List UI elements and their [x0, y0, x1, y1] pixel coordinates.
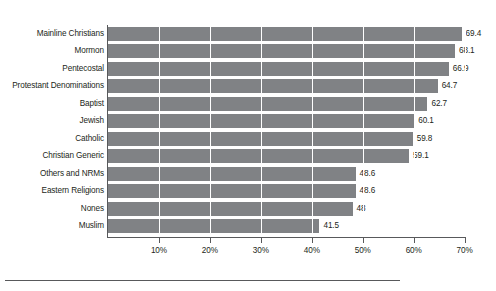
x-axis-tick — [363, 238, 364, 243]
bar-row: 41.5 — [108, 219, 496, 233]
bar-value-label: 48.6 — [356, 184, 376, 198]
gridline — [261, 27, 262, 236]
category-label: Jewish — [0, 114, 104, 128]
gridline — [414, 27, 415, 236]
bar — [108, 27, 462, 41]
bar-value-label: 59.8 — [413, 132, 433, 146]
bar — [108, 202, 353, 216]
bar-chart-figure: 69.468.166.964.762.760.159.859.148.648.6… — [0, 0, 496, 291]
x-axis-tick-label: 40% — [292, 246, 332, 255]
category-label: Pentecostal — [0, 62, 104, 76]
bar-row: 48.6 — [108, 184, 496, 198]
bar-row: 60.1 — [108, 114, 496, 128]
x-axis-tick-label: 30% — [241, 246, 281, 255]
bar-value-label: 60.1 — [414, 114, 434, 128]
bar-row: 66.9 — [108, 62, 496, 76]
gridline — [465, 27, 466, 236]
gridline — [210, 27, 211, 236]
x-axis-tick — [312, 238, 313, 243]
x-axis-tick — [210, 238, 211, 243]
category-label: Others and NRMs — [0, 167, 104, 181]
gridline — [312, 27, 313, 236]
x-axis-tick — [414, 238, 415, 243]
x-axis-tick-label: 10% — [139, 246, 179, 255]
category-label: Catholic — [0, 132, 104, 146]
category-label: Muslim — [0, 219, 104, 233]
footer-rule — [5, 280, 400, 281]
bar — [108, 79, 438, 93]
x-axis-tick-label: 60% — [394, 246, 434, 255]
bar-value-label: 41.5 — [319, 219, 339, 233]
bar-row: 68.1 — [108, 44, 496, 58]
bar — [108, 167, 356, 181]
bar-row: 48.6 — [108, 167, 496, 181]
bar-row: 64.7 — [108, 79, 496, 93]
bar — [108, 219, 319, 233]
category-label: Christian Generic — [0, 149, 104, 163]
x-axis-tick — [159, 238, 160, 243]
category-label: Mainline Christians — [0, 27, 104, 41]
bar-row: 69.4 — [108, 27, 496, 41]
bar-row: 59.1 — [108, 149, 496, 163]
bar-row: 48 — [108, 202, 496, 216]
bar-row: 62.7 — [108, 97, 496, 111]
category-label: Eastern Religions — [0, 184, 104, 198]
category-label: Mormon — [0, 44, 104, 58]
bar-value-label: 62.7 — [427, 97, 447, 111]
x-axis-tick-label: 70% — [445, 246, 485, 255]
x-axis-tick-label: 20% — [190, 246, 230, 255]
bar-value-label: 59.1 — [409, 149, 429, 163]
category-label: Protestant Denominations — [0, 79, 104, 93]
bar-row: 59.8 — [108, 132, 496, 146]
x-axis-tick — [465, 238, 466, 243]
bar-value-label: 64.7 — [438, 79, 458, 93]
bar — [108, 44, 455, 58]
bar — [108, 184, 356, 198]
x-axis-line — [107, 237, 466, 238]
gridline — [159, 27, 160, 236]
x-axis-tick-label: 50% — [343, 246, 383, 255]
bar — [108, 97, 427, 111]
bar-value-label: 48.6 — [356, 167, 376, 181]
x-axis-tick — [261, 238, 262, 243]
category-label: Baptist — [0, 97, 104, 111]
gridline — [363, 27, 364, 236]
category-label: Nones — [0, 202, 104, 216]
plot-area: 69.468.166.964.762.760.159.859.148.648.6… — [0, 0, 496, 250]
bar — [108, 149, 409, 163]
